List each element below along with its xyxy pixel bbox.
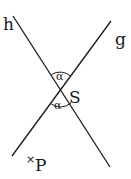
angle-label-top: α <box>56 70 64 83</box>
line-h-label: h <box>3 14 14 34</box>
point-marker: × <box>26 153 35 166</box>
intersection-label: S <box>69 87 81 107</box>
point-label: P <box>35 155 46 175</box>
line-g-label: g <box>115 29 126 49</box>
angle-label-bottom: α <box>54 99 62 112</box>
line-h <box>13 16 110 167</box>
vertical-angles-diagram: h g S α α × P <box>0 0 131 179</box>
line-g <box>12 21 111 156</box>
